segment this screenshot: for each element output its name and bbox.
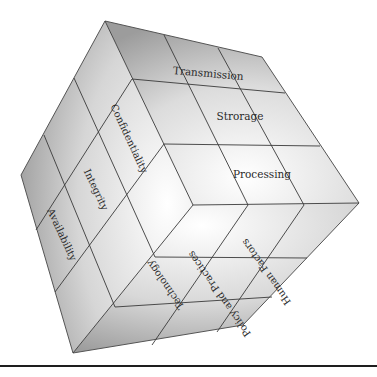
label-storage: Strorage (217, 110, 264, 122)
label-processing: Processing (233, 168, 291, 180)
caption-rule (0, 365, 377, 367)
cube-diagram: Transmission Strorage Processing Confide… (0, 0, 377, 377)
